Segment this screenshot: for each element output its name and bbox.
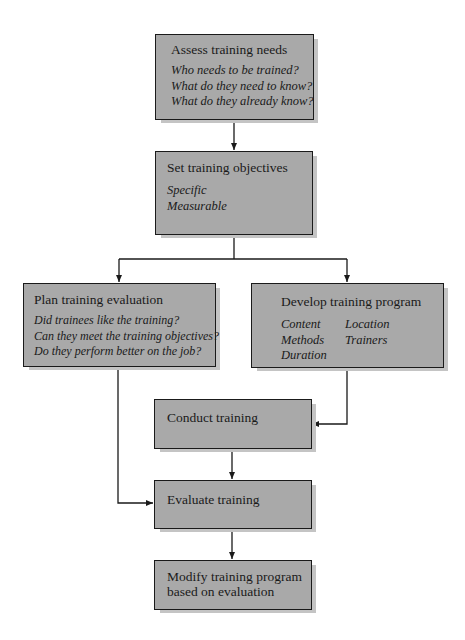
node-item: Trainers (345, 333, 389, 349)
node-item: Duration (281, 348, 327, 364)
node-item: Can they meet the training objectives? (34, 329, 219, 345)
node-plan-training-evaluation: Plan training evaluation Did trainees li… (23, 283, 216, 367)
node-items-col1: Content Methods Duration (281, 317, 327, 364)
node-item: Who needs to be trained? (171, 63, 314, 79)
arrow-plan-to-evaluate (118, 367, 153, 503)
node-items-col2: Location Trainers (345, 317, 389, 348)
node-title-line: Modify training program (167, 569, 302, 584)
node-item: Do they perform better on the job? (34, 344, 219, 360)
arrow-develop-to-conduct (312, 368, 347, 424)
node-evaluate-training: Evaluate training (154, 480, 312, 529)
node-item: Did trainees like the training? (34, 313, 219, 329)
node-title: Evaluate training (167, 492, 260, 508)
node-item: Content (281, 317, 327, 333)
node-conduct-training: Conduct training (154, 399, 312, 449)
node-title: Assess training needs (171, 42, 287, 58)
node-item: Location (345, 317, 389, 333)
node-develop-training-program: Develop training program Content Methods… (251, 283, 444, 368)
node-item: What do they already know? (171, 94, 314, 110)
node-item: Specific (167, 183, 227, 199)
node-set-training-objectives: Set training objectives Specific Measura… (155, 151, 313, 235)
node-items: Who needs to be trained? What do they ne… (171, 63, 314, 110)
node-item: Measurable (167, 199, 227, 215)
node-assess-training-needs: Assess training needs Who needs to be tr… (155, 34, 314, 120)
node-title: Set training objectives (167, 160, 288, 176)
node-item: What do they need to know? (171, 79, 314, 95)
node-title-line: based on evaluation (167, 584, 302, 599)
node-title: Plan training evaluation (34, 292, 163, 308)
node-title: Modify training program based on evaluat… (167, 569, 302, 599)
node-title: Develop training program (281, 294, 421, 310)
node-item: Methods (281, 333, 327, 349)
node-items: Specific Measurable (167, 183, 227, 214)
node-title: Conduct training (167, 410, 258, 426)
node-modify-training-program: Modify training program based on evaluat… (154, 560, 312, 610)
node-items: Did trainees like the training? Can they… (34, 313, 219, 360)
